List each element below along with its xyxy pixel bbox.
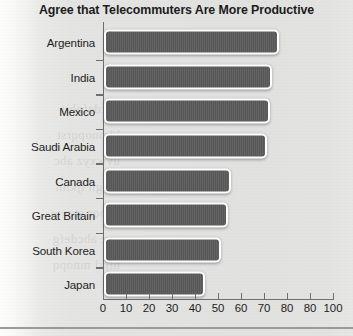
x-tick [149,293,150,300]
y-tick [96,198,104,199]
bar-row: Saudi Arabia [0,129,353,164]
bar-row: Japan [0,267,353,302]
category-label-india: India [0,70,95,83]
category-label-great-britain: Great Britain [0,209,95,222]
category-label-argentina: Argentina [0,36,95,49]
bar-fill [104,168,231,193]
y-tick [96,163,104,164]
category-label-mexico: Mexico [0,105,95,118]
bar-row: Argentina [0,25,353,60]
category-label-south-korea: South Korea [0,243,95,256]
bar-fill [104,272,205,297]
x-tick [218,293,219,300]
scanned-page: abcdefghij klmnopqrst uvwxyz abc defgh i… [0,0,353,336]
bar-row: South Korea [0,233,353,268]
x-tick [310,293,311,300]
bar-great-britain [104,203,228,228]
bar-row: Canada [0,163,353,198]
x-tick [126,293,127,300]
x-tick [195,293,196,300]
bar-india [104,64,272,89]
bar-canada [104,168,231,193]
bar-mexico [104,99,270,124]
bar-fill [104,203,228,228]
category-label-canada: Canada [0,174,95,187]
bar-fill [104,30,279,55]
bar-fill [104,134,267,159]
bar-fill [104,64,272,89]
x-tick-label: 100 [313,302,353,314]
y-tick [96,267,104,268]
x-tick [103,293,104,300]
footer-rule [0,327,353,329]
category-label-japan: Japan [0,278,95,291]
bar-argentina [104,30,279,55]
bar-row: India [0,60,353,95]
x-tick [333,293,334,300]
y-tick [96,60,104,61]
category-label-saudi-arabia: Saudi Arabia [0,140,95,153]
bar-chart-plot: ArgentinaIndiaMexicoSaudi ArabiaCanadaGr… [0,0,353,336]
bar-south-korea [104,237,221,262]
bar-fill [104,237,221,262]
x-tick [287,293,288,300]
bar-japan [104,272,205,297]
bar-saudi-arabia [104,134,267,159]
y-tick [96,94,104,95]
x-tick [172,293,173,300]
x-tick [264,293,265,300]
bar-row: Mexico [0,94,353,129]
y-tick [96,233,104,234]
bar-fill [104,99,270,124]
y-tick [96,129,104,130]
x-tick [241,293,242,300]
bar-row: Great Britain [0,198,353,233]
